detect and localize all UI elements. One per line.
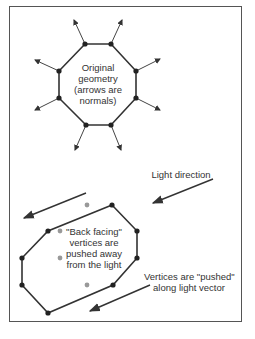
original-geometry-label: Original geometry (arrows are normals): [70, 62, 126, 106]
label-line: (arrows are: [70, 84, 126, 95]
label-line: normals): [70, 95, 126, 106]
label-line: pushed away: [64, 248, 124, 259]
label-line: geometry: [70, 73, 126, 84]
label-line: along light vector: [144, 282, 234, 293]
light-direction-label: Light direction: [146, 169, 216, 180]
back-facing-label: "Back facing" vertices are pushed away f…: [64, 226, 124, 270]
label-line: from the light: [64, 259, 124, 270]
label-line: Original: [70, 62, 126, 73]
label-line: vertices are: [64, 237, 124, 248]
label-line: "Back facing": [64, 226, 124, 237]
pushed-vertices-label: Vertices are "pushed" along light vector: [144, 271, 234, 293]
label-line: Vertices are "pushed": [144, 271, 234, 282]
